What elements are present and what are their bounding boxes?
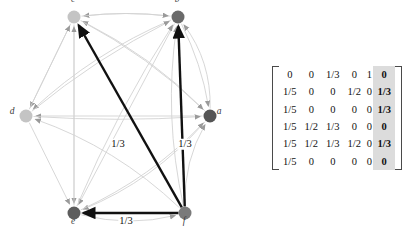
matrix-cell-r5-c3: 1/3 bbox=[322, 135, 344, 152]
matrix-row: 1/5001/201/3 bbox=[279, 83, 395, 100]
graph-node-d[interactable] bbox=[20, 110, 33, 123]
matrix-cell-r2-c2: 0 bbox=[301, 83, 323, 100]
matrix-row: 1/500000 bbox=[279, 153, 395, 170]
transition-matrix: 001/30101/5001/201/31/500001/31/51/21/30… bbox=[272, 66, 402, 170]
matrix-row: 001/3010 bbox=[279, 66, 395, 83]
matrix-cell-r5-c6: 1/3 bbox=[373, 135, 395, 152]
matrix-cell-r4-c3: 1/3 bbox=[322, 118, 344, 135]
matrix-cell-r6-c5: 0 bbox=[365, 153, 373, 170]
matrix-row: 1/51/21/3000 bbox=[279, 118, 395, 135]
matrix-cell-r3-c3: 0 bbox=[322, 101, 344, 118]
matrix-cell-r6-c3: 0 bbox=[322, 153, 344, 170]
matrix-cell-r4-c5: 0 bbox=[365, 118, 373, 135]
matrix-cell-r2-c5: 0 bbox=[365, 83, 373, 100]
graph-node-a[interactable] bbox=[204, 110, 217, 123]
bold-edge-f-to-b bbox=[178, 26, 184, 206]
matrix-cell-r6-c1: 1/5 bbox=[279, 153, 301, 170]
matrix-cell-r3-c2: 0 bbox=[301, 101, 323, 118]
matrix-cell-r1-c6: 0 bbox=[373, 66, 395, 83]
matrix-cell-r4-c4: 0 bbox=[344, 118, 366, 135]
matrix-cell-r1-c5: 1 bbox=[365, 66, 373, 83]
matrix-cell-r1-c2: 0 bbox=[301, 66, 323, 83]
graph-canvas bbox=[0, 0, 250, 235]
graph-node-b[interactable] bbox=[172, 11, 185, 24]
matrix-cell-r4-c6: 0 bbox=[373, 118, 395, 135]
matrix-cell-r6-c2: 0 bbox=[301, 153, 323, 170]
graph-node-c[interactable] bbox=[68, 11, 81, 24]
matrix-left-bracket bbox=[272, 66, 279, 170]
matrix-cell-r3-c6: 1/3 bbox=[373, 101, 395, 118]
matrix-cell-r2-c1: 1/5 bbox=[279, 83, 301, 100]
matrix-cell-r1-c3: 1/3 bbox=[322, 66, 344, 83]
matrix-row: 1/500001/3 bbox=[279, 101, 395, 118]
matrix-cell-r4-c2: 1/2 bbox=[301, 118, 323, 135]
directed-graph-diagram: abcdef 1/31/31/3 bbox=[0, 0, 250, 235]
faint-edge-c-to-b bbox=[81, 13, 168, 16]
faint-edge-d-to-b bbox=[32, 22, 169, 112]
matrix-cell-r1-c4: 0 bbox=[344, 66, 366, 83]
node-label-f: f bbox=[183, 217, 186, 227]
node-label-c: c bbox=[71, 0, 75, 5]
matrix-right-bracket bbox=[395, 66, 402, 170]
matrix-cell-r2-c4: 1/2 bbox=[344, 83, 366, 100]
edge-weight-label-f-to-e: 1/3 bbox=[118, 216, 133, 227]
matrix-cell-r5-c4: 1/2 bbox=[344, 135, 366, 152]
node-label-e: e bbox=[71, 217, 75, 227]
matrix-cell-r3-c4: 0 bbox=[344, 101, 366, 118]
edge-weight-label-f-to-b: 1/3 bbox=[177, 139, 192, 150]
matrix-cell-r5-c2: 1/2 bbox=[301, 135, 323, 152]
matrix-cell-r1-c1: 0 bbox=[279, 66, 301, 83]
matrix-row: 1/51/21/31/201/3 bbox=[279, 135, 395, 152]
faint-edge-a-to-e bbox=[83, 122, 205, 210]
faint-edge-d-to-e bbox=[29, 123, 69, 204]
figure-root: abcdef 1/31/31/3 001/30101/5001/201/31/5… bbox=[0, 0, 408, 235]
matrix-cell-r4-c1: 1/5 bbox=[279, 118, 301, 135]
matrix-cell-r2-c3: 0 bbox=[322, 83, 344, 100]
node-label-a: a bbox=[217, 107, 222, 117]
matrix-cell-r6-c6: 0 bbox=[373, 153, 395, 170]
node-label-d: d bbox=[10, 107, 15, 117]
matrix-cell-r5-c5: 0 bbox=[365, 135, 373, 152]
faint-edge-d-to-a bbox=[33, 116, 200, 119]
matrix-cell-r3-c1: 1/5 bbox=[279, 101, 301, 118]
matrix-cell-r5-c1: 1/5 bbox=[279, 135, 301, 152]
edge-weight-label-f-to-c: 1/3 bbox=[110, 139, 125, 150]
matrix-cell-r3-c5: 0 bbox=[365, 101, 373, 118]
node-label-b: b bbox=[175, 0, 180, 5]
matrix-cell-r6-c4: 0 bbox=[344, 153, 366, 170]
matrix-cell-r2-c6: 1/3 bbox=[373, 83, 395, 100]
matrix-table: 001/30101/5001/201/31/500001/31/51/21/30… bbox=[279, 66, 395, 170]
